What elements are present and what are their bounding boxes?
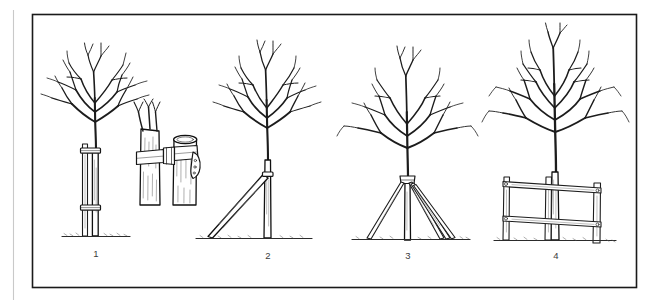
tree-4-trunk	[551, 172, 559, 240]
panel-4-number: 4	[553, 250, 558, 261]
tree-1-vertical-stake	[83, 144, 88, 236]
tree-staking-illustration-svg: 1	[0, 0, 666, 303]
detail-buckle	[164, 147, 175, 165]
panel-2-number: 2	[265, 250, 270, 261]
detail-belt-strap	[137, 150, 164, 165]
tree-1-tie-upper	[81, 148, 101, 153]
panel-3-number: 3	[405, 250, 410, 261]
tree-3-trunk	[405, 178, 411, 240]
tree-1-trunk	[92, 150, 98, 236]
panel-1-number: 1	[93, 248, 98, 259]
illustration-figure: 1	[0, 0, 666, 303]
tree-1-tie-lower	[81, 205, 101, 210]
tree-2-tie	[263, 172, 274, 176]
